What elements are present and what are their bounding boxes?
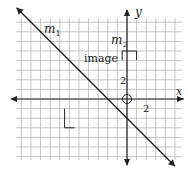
image-bracket [122, 51, 136, 60]
line-m2-label-sub: 2 [122, 40, 127, 49]
image-label: image [84, 52, 118, 65]
grid [16, 18, 182, 160]
line-m1-label: m1 [44, 22, 60, 38]
line-m2-label-main: m [111, 33, 122, 47]
y-axis-label: y [134, 5, 142, 19]
coordinate-diagram: y x 2 2 m1 m2 image [0, 0, 188, 173]
line-m2-label: m2 [111, 33, 127, 49]
y-axis-arrow-down [124, 159, 130, 166]
y-axis-arrow-up [124, 9, 130, 16]
y-tick-label: 2 [120, 75, 126, 86]
line-m1-label-sub: 1 [55, 29, 60, 38]
line-m1-label-main: m [44, 22, 55, 36]
x-axis-label: x [176, 85, 183, 98]
x-axis-arrow-left [10, 96, 17, 102]
x-tick-label: 2 [143, 103, 149, 114]
